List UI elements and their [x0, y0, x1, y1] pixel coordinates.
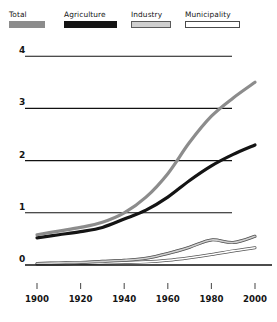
x-tick-label: 1900 [25, 294, 49, 304]
x-tick-label: 1920 [69, 294, 93, 304]
x-tick-label: 1940 [112, 294, 136, 304]
legend-item-agriculture[interactable]: Agriculture [64, 10, 117, 28]
gridlines-group [25, 56, 232, 213]
x-tick-labels: 190019201940196019802000 [25, 294, 267, 304]
chart-legend: Total Agriculture Industry Municipality [0, 0, 277, 40]
axis-group [25, 265, 272, 289]
legend-label-total: Total [9, 10, 45, 19]
y-tick-labels: 01234 [19, 45, 25, 264]
series-line-agriculture [37, 145, 255, 238]
legend-item-industry[interactable]: Industry [131, 10, 171, 28]
x-tick-label: 2000 [243, 294, 267, 304]
y-tick-label: 0 [19, 254, 25, 264]
x-tick-label: 1960 [156, 294, 180, 304]
y-tick-label: 3 [19, 97, 25, 107]
y-tick-label: 2 [19, 150, 25, 160]
legend-item-municipality[interactable]: Municipality [185, 10, 240, 28]
legend-swatch-total-icon [9, 21, 45, 28]
y-tick-label: 1 [19, 202, 25, 212]
legend-item-total[interactable]: Total [9, 10, 45, 28]
legend-label-municipality: Municipality [185, 10, 240, 19]
data-series-group [37, 82, 255, 264]
x-tick-label: 1980 [199, 294, 223, 304]
legend-label-industry: Industry [131, 10, 171, 19]
legend-label-agriculture: Agriculture [64, 10, 117, 19]
series-outline-industry [37, 236, 255, 263]
plot-area: 01234 190019201940196019802000 [0, 40, 277, 322]
chart-screenshot: Total Agriculture Industry Municipality … [0, 0, 277, 322]
legend-swatch-industry-icon [131, 21, 171, 28]
y-tick-label: 4 [19, 45, 25, 55]
line-chart: 01234 190019201940196019802000 [0, 40, 277, 322]
legend-swatch-municipality-icon [185, 21, 240, 28]
legend-swatch-agriculture-icon [64, 21, 117, 28]
